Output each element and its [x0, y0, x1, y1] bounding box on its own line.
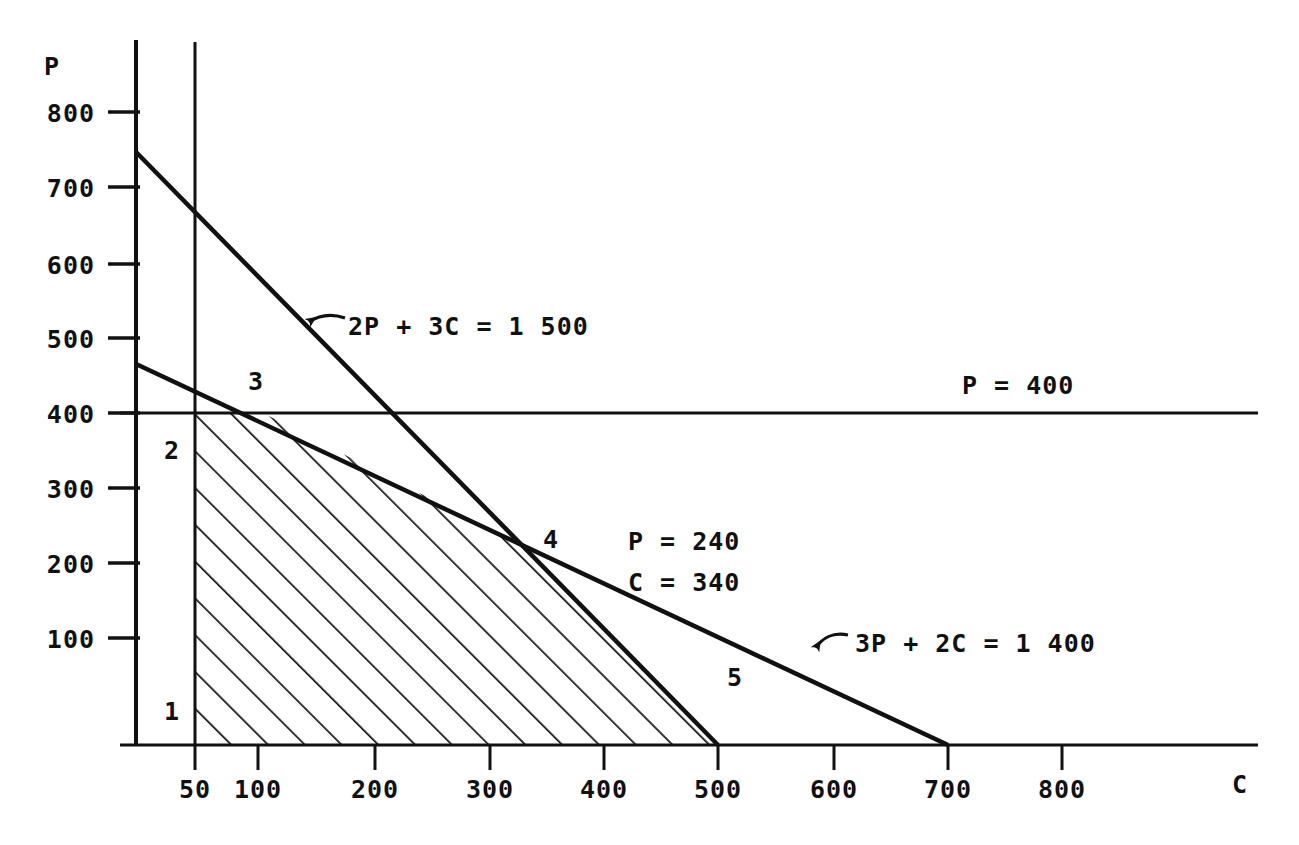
p-axis-label: P [44, 52, 60, 81]
solution-c-value: C = 340 [628, 568, 740, 597]
vertex-label-1: 1 [164, 697, 180, 726]
c-tick-400: 400 [559, 775, 649, 804]
p-tick-400: 400 [0, 400, 95, 429]
p-tick-500: 500 [0, 325, 95, 354]
c-tick-500: 500 [673, 775, 763, 804]
p-tick-200: 200 [0, 550, 95, 579]
c-tick-600: 600 [789, 775, 879, 804]
c-tick-300: 300 [445, 775, 535, 804]
vertex-label-3: 3 [248, 367, 264, 396]
p-tick-100: 100 [0, 625, 95, 654]
vertex-label-5: 5 [727, 663, 743, 692]
line-label-3p-2c: 3P + 2C = 1 400 [855, 629, 1096, 658]
line-label-p400: P = 400 [962, 371, 1074, 400]
p-tick-600: 600 [0, 251, 95, 280]
callout-arrow-2p-3c [309, 315, 345, 322]
p-tick-700: 700 [0, 174, 95, 203]
linear-programming-graph [0, 0, 1299, 845]
vertex-label-2: 2 [164, 436, 180, 465]
solution-p-value: P = 240 [628, 527, 740, 556]
c-axis-ticks [195, 745, 1062, 770]
c-axis-label: C [1232, 770, 1248, 799]
c-tick-700: 700 [903, 775, 993, 804]
vertex-label-4: 4 [543, 525, 559, 554]
callout-arrow-3p-2c [816, 634, 848, 648]
line-label-2p-3c: 2P + 3C = 1 500 [348, 312, 589, 341]
c-tick-200: 200 [330, 775, 420, 804]
c-tick-800: 800 [1017, 775, 1107, 804]
p-tick-300: 300 [0, 475, 95, 504]
p-tick-800: 800 [0, 99, 95, 128]
c-tick-100: 100 [213, 775, 303, 804]
